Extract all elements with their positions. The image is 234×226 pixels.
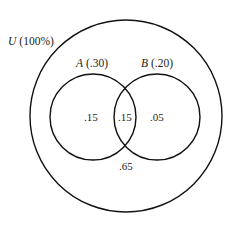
region-a-only-value: .15 (84, 111, 98, 123)
universe-label: U(100%) (8, 35, 54, 48)
region-neither-value: .65 (119, 160, 133, 172)
region-b-only-value: .05 (150, 111, 164, 123)
set-a-label: A(.30) (75, 57, 108, 70)
set-b-label: B(.20) (141, 57, 173, 70)
region-a-and-b-value: .15 (118, 111, 132, 123)
venn-diagram: U(100%) A(.30) B(.20) .15 .15 .05 .65 (0, 0, 234, 226)
